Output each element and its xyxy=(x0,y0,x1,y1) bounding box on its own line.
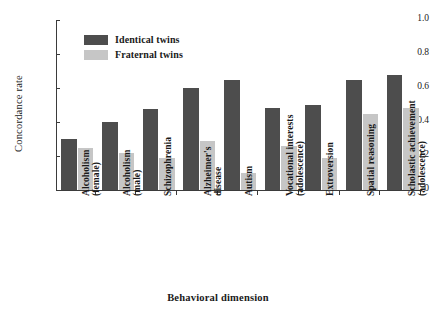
bar-identical-4 xyxy=(224,80,240,190)
bar-identical-2 xyxy=(143,109,159,190)
bar-identical-3 xyxy=(183,88,199,190)
bar-identical-5 xyxy=(265,108,281,190)
y-tick-mark xyxy=(56,20,60,21)
bar-identical-8 xyxy=(387,75,403,190)
x-tick-mark-7 xyxy=(379,190,380,195)
y-tick-mark xyxy=(56,190,60,191)
y-tick-label: 1.0 xyxy=(417,13,429,23)
y-axis-line xyxy=(56,20,57,191)
x-tick-mark-2 xyxy=(176,190,177,195)
legend: Identical twins Fraternal twins xyxy=(84,33,183,63)
x-axis-title: Behavioral dimension xyxy=(0,292,436,303)
y-tick-label: 0.6 xyxy=(417,81,429,91)
legend-item-identical-twins: Identical twins xyxy=(84,33,183,46)
y-tick-label: 0.8 xyxy=(417,47,429,57)
legend-item-fraternal-twins: Fraternal twins xyxy=(84,48,183,61)
bar-identical-1 xyxy=(102,122,118,190)
concordance-rate-bar-chart: Concordance rate 00.20.40.60.81.0 Alcoho… xyxy=(0,0,436,317)
bar-identical-6 xyxy=(305,105,321,190)
y-axis-title: Concordance rate xyxy=(13,34,24,194)
y-tick-label: 0.4 xyxy=(417,115,429,125)
legend-swatch-fraternal-twins xyxy=(84,50,108,60)
bar-identical-7 xyxy=(346,80,362,191)
bar-identical-0 xyxy=(61,139,77,190)
x-tick-mark-4 xyxy=(257,190,258,195)
y-tick-mark xyxy=(56,122,60,123)
y-tick-mark xyxy=(56,88,60,89)
legend-label-fraternal-twins: Fraternal twins xyxy=(115,49,183,60)
x-tick-mark-6 xyxy=(339,190,340,195)
legend-swatch-identical-twins xyxy=(84,35,108,45)
legend-label-identical-twins: Identical twins xyxy=(115,34,180,45)
y-tick-mark xyxy=(56,156,60,157)
y-tick-mark xyxy=(56,54,60,55)
